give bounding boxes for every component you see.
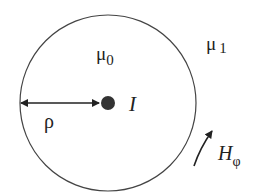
inner-medium-label: μ0	[96, 43, 114, 68]
current-dot	[101, 96, 115, 110]
current-label: I	[128, 92, 137, 116]
diagram-canvas: μ0 μ1 ρ I Hφ	[0, 0, 262, 196]
outer-medium-label: μ1	[206, 33, 227, 56]
field-direction-arrow	[194, 131, 212, 166]
radius-label: ρ	[44, 110, 54, 133]
field-label: Hφ	[217, 142, 241, 169]
